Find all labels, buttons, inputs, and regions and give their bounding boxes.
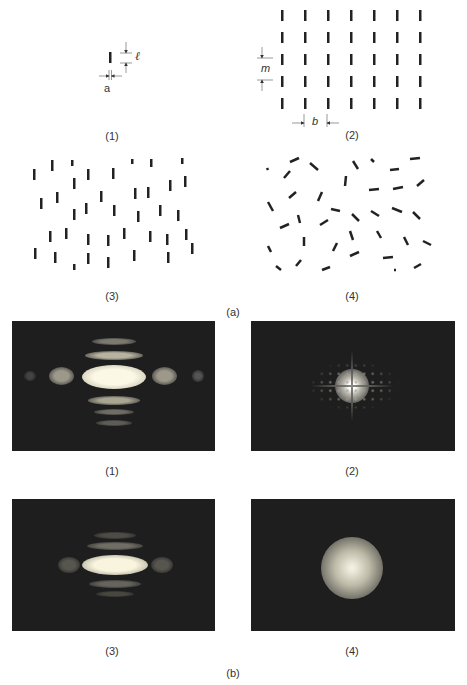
panel-b1-label: (1) [92, 465, 132, 477]
part-a-drawings [0, 0, 467, 310]
panel-b2-label: (2) [332, 465, 372, 477]
panel-a4-label: (4) [332, 290, 372, 302]
random-oriented-slits [267, 158, 431, 270]
slit-array [281, 10, 422, 109]
panel-a2-label: (2) [332, 129, 372, 141]
panel-b4-label: (4) [332, 645, 372, 657]
row-spacing-symbol: m [261, 62, 270, 74]
random-aligned-slits [33, 158, 194, 270]
width-symbol: a [104, 82, 110, 94]
panel-a1-label: (1) [92, 130, 132, 142]
length-symbol: ℓ [135, 49, 140, 64]
panel-b3-label: (3) [92, 645, 132, 657]
pattern-panel-3 [12, 499, 215, 631]
pattern-panel-1 [12, 321, 215, 451]
single-slit [99, 42, 132, 80]
col-spacing-symbol: b [312, 115, 318, 127]
part-a-label: (a) [213, 306, 253, 318]
pattern-panel-2 [251, 321, 455, 451]
array-dimensions [257, 47, 339, 127]
part-b-label: (b) [213, 667, 253, 679]
panel-a3-label: (3) [92, 290, 132, 302]
pattern-panel-4 [251, 499, 455, 631]
